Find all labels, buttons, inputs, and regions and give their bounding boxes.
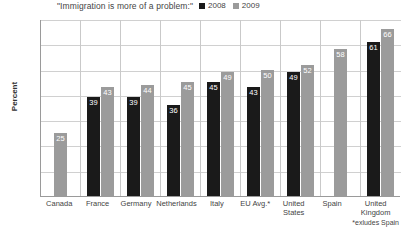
legend-label-2008: 2008 (208, 1, 226, 10)
bar-2009: 44 (141, 85, 154, 196)
x-axis-label: Canada (40, 199, 78, 227)
bar-value-label: 45 (183, 83, 191, 92)
x-axis-label: UnitedKingdom*exludes Spain (351, 199, 400, 227)
y-axis-title: Percent (10, 67, 19, 127)
immigration-bar-chart: "Immigration is more of a problem:" 2008… (0, 0, 406, 237)
bar-2009: 66 (381, 29, 394, 196)
legend-label-2009: 2009 (242, 1, 260, 10)
chart-legend: 2008 2009 (199, 1, 260, 10)
bar-group: 4549 (201, 20, 241, 196)
bar-group: 4952 (281, 20, 321, 196)
bar-2008: 36 (167, 105, 180, 196)
bar-value-label: 66 (383, 30, 391, 39)
bar-group: 25 (41, 20, 81, 196)
legend-item-2009: 2009 (233, 1, 260, 10)
x-axis-label: United States (274, 199, 312, 227)
bar-group: 3943 (81, 20, 121, 196)
bar-value-label: 39 (129, 98, 137, 107)
bar-2009: 45 (181, 82, 194, 196)
x-axis-label: Netherlands (155, 199, 197, 227)
bar-2009: 25 (54, 133, 67, 196)
bar-group: 3645 (161, 20, 201, 196)
bar-2009: 49 (221, 72, 234, 196)
bar-group: 58 (321, 20, 361, 196)
x-axis-label: Spain (313, 199, 351, 227)
chart-title: "Immigration is more of a problem:" (57, 1, 193, 11)
plot-area: 010203040506070 253943394436454549435049… (40, 20, 400, 197)
legend-item-2008: 2008 (199, 1, 226, 10)
bar-value-label: 58 (336, 50, 344, 59)
bar-2009: 50 (261, 70, 274, 196)
x-axis-label: France (78, 199, 116, 227)
bar-value-label: 49 (223, 73, 231, 82)
bar-value-label: 43 (249, 88, 257, 97)
bar-value-label: 43 (103, 88, 111, 97)
bar-group: 4350 (241, 20, 281, 196)
chart-footnote: *exludes Spain (352, 218, 399, 227)
bar-2008: 49 (287, 72, 300, 196)
bar-value-label: 49 (289, 73, 297, 82)
bar-value-label: 39 (89, 98, 97, 107)
x-axis-labels: CanadaFranceGermanyNetherlandsItalyEU Av… (40, 199, 400, 227)
bar-2008: 39 (127, 97, 140, 196)
bar-value-label: 50 (263, 71, 271, 80)
bar-2008: 43 (247, 87, 260, 196)
legend-swatch-2008 (199, 3, 205, 9)
x-axis-label: EU Avg.* (236, 199, 274, 227)
bar-value-label: 25 (56, 134, 64, 143)
bar-value-label: 52 (303, 66, 311, 75)
bar-groups: 25394339443645454943504952586166 (41, 20, 400, 196)
bar-2008: 61 (367, 42, 380, 196)
bar-value-label: 44 (143, 86, 151, 95)
bar-2009: 58 (334, 49, 347, 196)
legend-swatch-2009 (233, 3, 239, 9)
bar-value-label: 36 (169, 106, 177, 115)
bar-group: 6166 (361, 20, 400, 196)
bar-2009: 52 (301, 65, 314, 196)
bar-2008: 45 (207, 82, 220, 196)
x-axis-label: Italy (198, 199, 236, 227)
x-axis-label: Germany (117, 199, 155, 227)
bar-2008: 39 (87, 97, 100, 196)
bar-value-label: 61 (369, 43, 377, 52)
bar-2009: 43 (101, 87, 114, 196)
bar-group: 3944 (121, 20, 161, 196)
bar-value-label: 45 (209, 83, 217, 92)
